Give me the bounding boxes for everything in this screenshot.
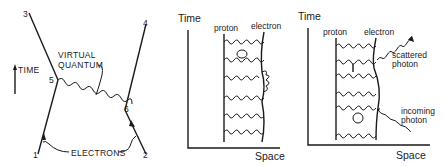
diagram-proton-electron: Time Space proton electron <box>178 12 285 162</box>
vacuum-loop <box>353 113 363 123</box>
time-label: TIME <box>18 65 40 75</box>
time-axis-label: Time <box>298 10 321 22</box>
vertex-6-label: 6 <box>124 104 129 114</box>
vertex-4-label: 4 <box>143 18 148 28</box>
vertex-1-label: 1 <box>33 150 38 160</box>
virtual-label: VIRTUAL <box>58 50 96 60</box>
vacuum-loop <box>237 50 247 58</box>
axes <box>188 30 280 148</box>
electron-worldline <box>261 32 264 142</box>
virtual-quantum-wave <box>58 78 132 104</box>
electron-label: electron <box>251 21 282 31</box>
vertex-3-label: 3 <box>23 9 28 19</box>
scattered-photon-label: photon <box>392 59 418 69</box>
quantum-label: QUANTUM <box>58 60 103 70</box>
photon-exchange-waves <box>336 44 376 138</box>
proton-label: proton <box>323 27 347 37</box>
time-axis-label: Time <box>178 12 201 24</box>
electron-line-6-4 <box>125 24 146 110</box>
space-axis-label: Space <box>396 149 426 161</box>
diagram-electron-scattering: TIME VIRTUAL QUANTUM 5 6 3 4 1 2 ELECTRO… <box>13 9 148 160</box>
feynman-diagrams-figure: TIME VIRTUAL QUANTUM 5 6 3 4 1 2 ELECTRO… <box>0 0 446 167</box>
electron-label: electron <box>364 27 395 37</box>
incoming-photon-label: photon <box>401 115 427 125</box>
time-arrow-icon <box>13 64 17 94</box>
electron-line-2-6 <box>125 110 146 154</box>
space-axis-label: Space <box>255 150 285 162</box>
axes <box>308 28 430 145</box>
electron-worldline <box>373 38 379 140</box>
vertex-5-label: 5 <box>49 75 54 85</box>
electrons-label: ELECTRONS <box>71 148 126 158</box>
proton-label: proton <box>214 23 238 33</box>
electrons-pointer-left <box>43 141 69 152</box>
diagram-compton-scattering: Time Space proton electron scattered pho… <box>298 10 435 161</box>
vertex-2-label: 2 <box>143 150 148 160</box>
